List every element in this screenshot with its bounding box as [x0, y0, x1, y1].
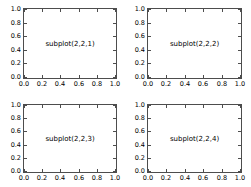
xtick-label: 1.0 — [110, 81, 120, 88]
ytick-mark-right — [113, 77, 116, 78]
ytick-mark — [24, 77, 27, 78]
ytick-label: 0.4 — [135, 142, 145, 149]
xtick-mark-top — [166, 9, 167, 12]
axes-subplot-1: 0.00.20.40.60.81.00.00.20.40.60.81.0subp… — [23, 8, 117, 79]
xtick-label: 0.8 — [217, 175, 227, 182]
xtick-mark — [222, 75, 223, 78]
xtick-mark — [79, 169, 80, 172]
ytick-mark — [148, 171, 151, 172]
ytick-mark-right — [113, 105, 116, 106]
xtick-label: 0.4 — [55, 81, 65, 88]
xtick-label: 1.0 — [235, 81, 245, 88]
ytick-mark — [148, 131, 151, 132]
ytick-mark — [24, 36, 27, 37]
ytick-mark-right — [238, 131, 241, 132]
ytick-label: 1.0 — [11, 102, 21, 109]
xtick-mark-top — [60, 105, 61, 108]
ytick-mark-right — [238, 63, 241, 64]
xtick-mark — [97, 75, 98, 78]
xtick-mark-top — [203, 105, 204, 108]
ytick-label: 0.0 — [11, 168, 21, 175]
xtick-mark — [60, 75, 61, 78]
xtick-label: 0.2 — [37, 81, 47, 88]
xtick-label: 1.0 — [235, 175, 245, 182]
ytick-label: 0.2 — [11, 60, 21, 67]
xtick-mark — [203, 169, 204, 172]
xtick-mark-top — [79, 105, 80, 108]
ytick-mark — [24, 50, 27, 51]
ytick-mark-right — [238, 23, 241, 24]
ytick-mark — [24, 105, 27, 106]
xtick-mark-top — [97, 105, 98, 108]
xtick-mark-top — [97, 9, 98, 12]
ytick-mark-right — [238, 77, 241, 78]
xtick-mark-top — [185, 9, 186, 12]
xtick-mark-top — [185, 105, 186, 108]
xtick-mark — [42, 75, 43, 78]
ytick-mark — [148, 77, 151, 78]
ytick-mark-right — [238, 105, 241, 106]
ytick-mark — [148, 118, 151, 119]
ytick-mark-right — [238, 171, 241, 172]
subplot-annotation-4: subplot(2,2,4) — [170, 135, 219, 143]
xtick-label: 0.0 — [143, 81, 153, 88]
xtick-mark-top — [79, 9, 80, 12]
xtick-mark-top — [203, 9, 204, 12]
xtick-label: 0.6 — [198, 175, 208, 182]
xtick-mark-top — [222, 9, 223, 12]
xtick-label: 0.4 — [180, 175, 190, 182]
xtick-mark — [222, 169, 223, 172]
subplot-annotation-2: subplot(2,2,2) — [170, 40, 219, 48]
xtick-mark — [97, 169, 98, 172]
matplotlib-figure: 0.00.20.40.60.81.00.00.20.40.60.81.0subp… — [0, 0, 251, 187]
ytick-mark-right — [113, 131, 116, 132]
ytick-label: 0.4 — [11, 142, 21, 149]
ytick-mark-right — [238, 118, 241, 119]
xtick-label: 1.0 — [110, 175, 120, 182]
ytick-mark — [24, 63, 27, 64]
ytick-mark — [148, 63, 151, 64]
xtick-mark — [60, 169, 61, 172]
xtick-label: 0.8 — [92, 175, 102, 182]
ytick-mark-right — [113, 118, 116, 119]
xtick-mark — [185, 75, 186, 78]
ytick-mark — [24, 23, 27, 24]
ytick-mark-right — [238, 36, 241, 37]
xtick-label: 0.6 — [198, 81, 208, 88]
subplot-annotation-1: subplot(2,2,1) — [45, 40, 94, 48]
ytick-label: 0.2 — [11, 155, 21, 162]
xtick-label: 0.4 — [180, 81, 190, 88]
ytick-mark-right — [113, 158, 116, 159]
ytick-mark-right — [238, 158, 241, 159]
ytick-mark-right — [238, 145, 241, 146]
ytick-mark — [148, 158, 151, 159]
xtick-label: 0.2 — [161, 81, 171, 88]
ytick-label: 0.6 — [11, 33, 21, 40]
ytick-label: 0.0 — [11, 74, 21, 81]
ytick-mark — [24, 145, 27, 146]
ytick-label: 0.6 — [135, 128, 145, 135]
xtick-mark — [166, 75, 167, 78]
xtick-mark-top — [222, 105, 223, 108]
xtick-mark — [166, 169, 167, 172]
ytick-label: 0.6 — [11, 128, 21, 135]
ytick-mark — [148, 23, 151, 24]
subplot-annotation-3: subplot(2,2,3) — [45, 135, 94, 143]
ytick-mark-right — [113, 23, 116, 24]
axes-subplot-4: 0.00.20.40.60.81.00.00.20.40.60.81.0subp… — [147, 104, 242, 173]
ytick-mark-right — [238, 50, 241, 51]
ytick-label: 1.0 — [135, 102, 145, 109]
ytick-mark — [148, 9, 151, 10]
xtick-mark — [42, 169, 43, 172]
ytick-label: 0.2 — [135, 155, 145, 162]
ytick-label: 0.2 — [135, 60, 145, 67]
ytick-mark — [24, 131, 27, 132]
xtick-label: 0.6 — [74, 81, 84, 88]
ytick-mark — [148, 145, 151, 146]
xtick-label: 0.0 — [143, 175, 153, 182]
ytick-label: 1.0 — [135, 6, 145, 13]
xtick-label: 0.8 — [92, 81, 102, 88]
ytick-label: 0.0 — [135, 74, 145, 81]
ytick-mark-right — [113, 9, 116, 10]
axes-subplot-2: 0.00.20.40.60.81.00.00.20.40.60.81.0subp… — [147, 8, 242, 79]
